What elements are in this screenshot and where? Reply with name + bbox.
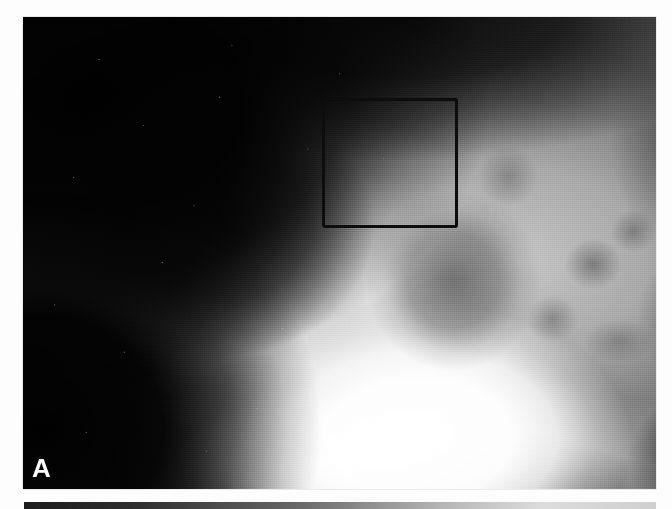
panel-label-a: A <box>32 455 51 481</box>
region-of-interest-box <box>322 98 458 228</box>
page-canvas: A <box>0 0 672 509</box>
radiograph-panel-a: A <box>23 17 656 489</box>
following-panel-clipped <box>24 502 656 509</box>
film-base-tone <box>23 17 656 489</box>
